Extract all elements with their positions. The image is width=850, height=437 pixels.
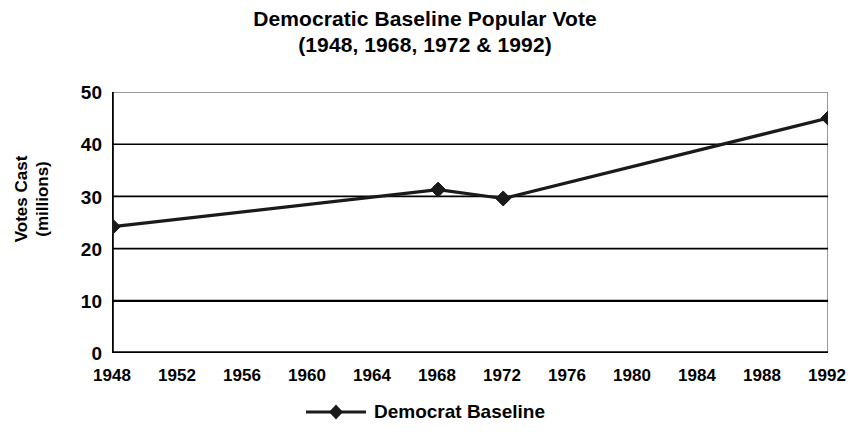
y-tick-label-30: 30 [56,188,102,207]
data-point-marker [431,182,446,197]
y-tick-label-20: 20 [56,240,102,259]
plot-area [112,92,828,353]
chart-title-line-2: (1948, 1968, 1972 & 1992) [0,32,850,58]
x-tick-label-1960: 1960 [275,366,339,385]
legend-marker-icon [305,403,367,421]
chart-container: Democratic Baseline Popular Vote (1948, … [0,0,850,437]
y-tick-label-50: 50 [56,83,102,102]
x-tick-label-1972: 1972 [470,366,534,385]
series-line-democrat-baseline [113,118,828,227]
chart-legend: Democrat Baseline [0,402,850,421]
x-tick-label-1952: 1952 [145,366,209,385]
y-axis-title: Votes Cast (millions) [11,99,53,299]
x-tick-label-1964: 1964 [340,366,404,385]
y-axis-title-line-1: Votes Cast [11,99,32,299]
x-tick-label-1968: 1968 [405,366,469,385]
x-tick-label-1948: 1948 [80,366,144,385]
y-tick-label-10: 10 [56,292,102,311]
y-tick-label-0: 0 [56,344,102,363]
chart-title: Democratic Baseline Popular Vote (1948, … [0,6,850,58]
x-tick-label-1976: 1976 [535,366,599,385]
legend-entry-label: Democrat Baseline [374,402,545,421]
x-tick-label-1980: 1980 [600,366,664,385]
y-axis-title-line-2: (millions) [32,99,53,299]
x-tick-label-1988: 1988 [730,366,794,385]
chart-title-line-1: Democratic Baseline Popular Vote [0,6,850,32]
y-tick-label-40: 40 [56,135,102,154]
x-tick-label-1984: 1984 [665,366,729,385]
data-point-marker [112,219,120,234]
x-tick-label-1992: 1992 [795,366,850,385]
x-tick-label-1956: 1956 [210,366,274,385]
data-point-marker [821,111,828,126]
data-point-marker [496,191,511,206]
